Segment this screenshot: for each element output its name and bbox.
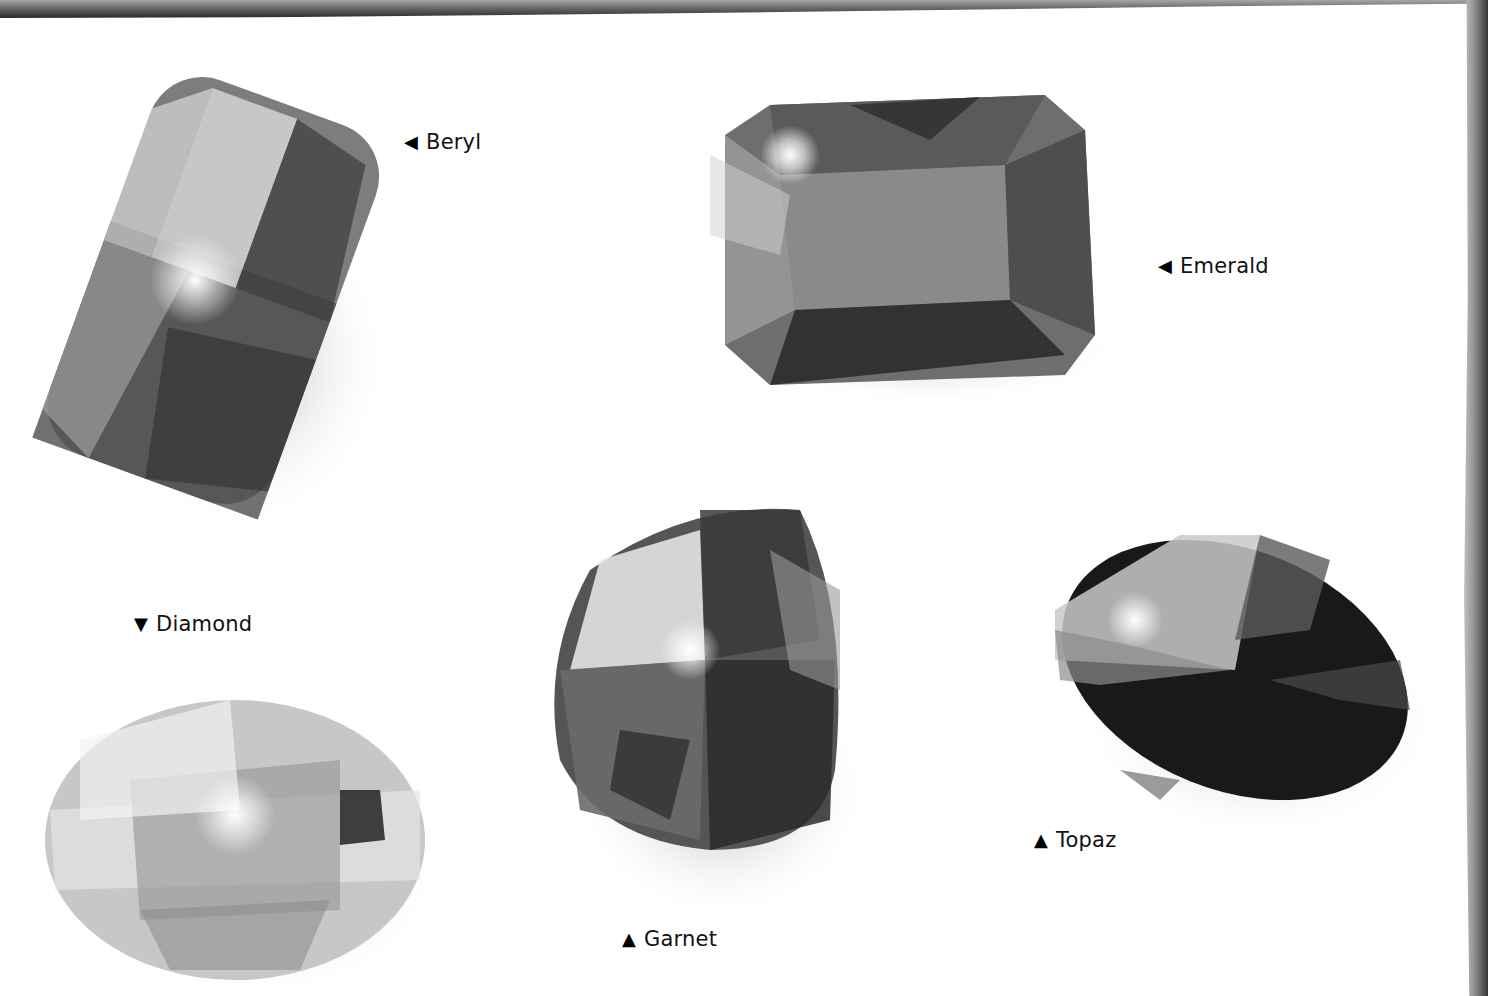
triangle-down-icon: ▼ [134, 615, 148, 633]
top-border [0, 0, 1488, 18]
garnet-gem-image [540, 490, 860, 910]
diamond-gem-image [40, 680, 440, 996]
emerald-glint [760, 125, 820, 185]
diamond-label: ▼ Diamond [134, 612, 252, 636]
triangle-up-icon: ▲ [1034, 831, 1048, 849]
beryl-label: ◀ Beryl [404, 130, 481, 154]
garnet-label-text: Garnet [644, 927, 717, 951]
diamond-label-text: Diamond [156, 612, 252, 636]
topaz-gem-image [1040, 520, 1440, 820]
emerald-label-text: Emerald [1180, 254, 1269, 278]
right-border [1462, 0, 1488, 996]
gem-illustration-page: ◀ Beryl ◀ Emerald [0, 0, 1488, 996]
emerald-gem-image [700, 85, 1120, 415]
triangle-left-icon: ◀ [404, 133, 418, 151]
beryl-label-text: Beryl [426, 130, 481, 154]
triangle-left-icon: ◀ [1158, 257, 1172, 275]
garnet-label: ▲ Garnet [622, 927, 717, 951]
emerald-label: ◀ Emerald [1158, 254, 1269, 278]
triangle-up-icon: ▲ [622, 930, 636, 948]
topaz-label: ▲ Topaz [1034, 828, 1116, 852]
topaz-label-text: Topaz [1056, 828, 1116, 852]
beryl-gem-image [30, 80, 390, 520]
